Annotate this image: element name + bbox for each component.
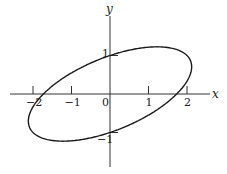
x-tick-label: 2	[184, 96, 191, 109]
y-axis-label: y	[105, 2, 113, 16]
x-tick-label: 1	[146, 96, 153, 109]
ellipse-figure: −2−1121−1 x y 0	[0, 0, 227, 174]
x-tick-label: −1	[65, 96, 81, 109]
x-axis-label: x	[212, 87, 219, 101]
origin-label: 0	[102, 96, 109, 109]
